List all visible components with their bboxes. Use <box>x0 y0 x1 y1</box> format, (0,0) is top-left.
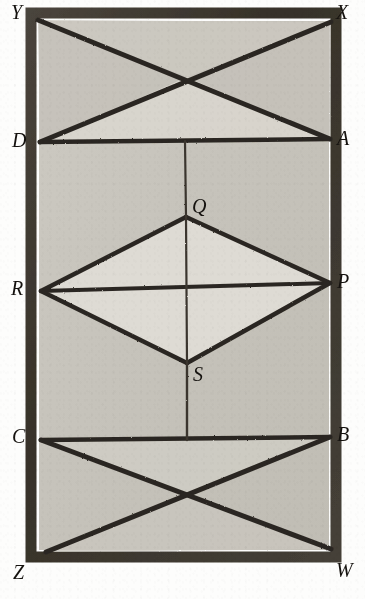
vertex-label-Q: Q <box>192 196 206 216</box>
vertex-label-Y: Y <box>11 2 22 22</box>
line-Q-to-S <box>186 217 187 363</box>
vertex-label-R: R <box>11 278 23 298</box>
vertex-label-A: A <box>337 128 349 148</box>
vertex-label-D: D <box>12 130 26 150</box>
figure-canvas <box>0 0 365 599</box>
vertex-label-P: P <box>337 271 349 291</box>
line-C-to-B <box>41 437 330 440</box>
geometric-figure: Y X D A Q R P S C B Z W <box>0 0 365 599</box>
vertex-label-W: W <box>336 560 353 580</box>
vertex-label-X: X <box>336 2 348 22</box>
vertex-label-B: B <box>337 424 349 444</box>
vertex-label-C: C <box>12 426 25 446</box>
vertex-label-Z: Z <box>13 562 24 582</box>
vertex-label-S: S <box>193 364 203 384</box>
line-DA-midpoint-to-Q <box>185 141 186 217</box>
